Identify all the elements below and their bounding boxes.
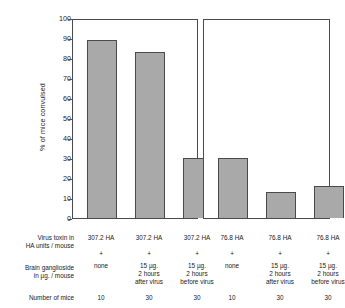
cell-virus-toxin-4: 76.8 HA: [257, 234, 303, 242]
cell-number-of-mice-1: 30: [126, 294, 172, 302]
y-axis-title: % of mice convulsed: [38, 0, 47, 52]
cell-ganglioside-1: 15 µg.2 hoursafter virus: [126, 262, 172, 287]
cell-number-of-mice-3: 10: [209, 294, 255, 302]
bar-3: [218, 158, 248, 218]
bar-5: [314, 186, 344, 218]
cell-virus-toxin-0: 307.2 HA: [78, 234, 124, 242]
cell-plus-4: +: [257, 250, 303, 258]
cell-plus-5: +: [305, 250, 345, 258]
y-tick-mark-0: [68, 219, 72, 220]
cell-ganglioside-3: none: [209, 262, 255, 270]
cell-virus-toxin-3: 76.8 HA: [209, 234, 255, 242]
bar-4: [266, 192, 296, 218]
y-axis-title-text: % of mice convulsed: [38, 52, 47, 182]
chart-panel-left: [72, 19, 198, 219]
cell-ganglioside-5: 15 µg.2 hoursbefore virus: [305, 262, 345, 287]
plot-area: % of mice convulsed 10090807060504030201…: [0, 0, 345, 232]
bar-1: [135, 52, 165, 218]
cell-virus-toxin-1: 307.2 HA: [126, 234, 172, 242]
chart-panel-right: [203, 19, 330, 219]
cell-ganglioside-0: none: [78, 262, 124, 270]
table-row-label-0: Virus toxin inHA units / mouse: [2, 234, 74, 250]
bar-group-right: [204, 20, 329, 218]
cell-number-of-mice-5: 30: [305, 294, 345, 302]
bar-chart-figure: % of mice convulsed 10090807060504030201…: [0, 0, 345, 308]
cell-number-of-mice-0: 10: [78, 294, 124, 302]
bar-0: [87, 40, 117, 218]
condition-table: Virus toxin inHA units / mouseBrain gang…: [0, 232, 345, 308]
cell-ganglioside-4: 15 µg.2 hoursafter virus: [257, 262, 303, 287]
table-row-label-2: Number of mice: [2, 294, 74, 302]
cell-number-of-mice-4: 30: [257, 294, 303, 302]
cell-virus-toxin-5: 76.8 HA: [305, 234, 345, 242]
cell-plus-0: +: [78, 250, 124, 258]
bar-group-left: [73, 20, 197, 218]
cell-plus-1: +: [126, 250, 172, 258]
cell-plus-3: +: [209, 250, 255, 258]
table-row-label-1: Brain gangliosidein µg. / mouse: [2, 264, 74, 280]
y-axis-tick-labels: 1009080706050403020100: [49, 0, 71, 232]
